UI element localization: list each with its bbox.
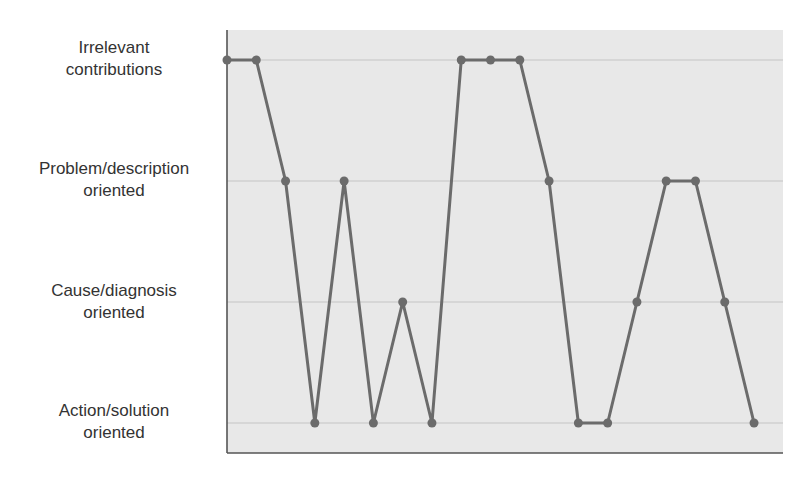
data-point	[632, 298, 641, 307]
data-point	[574, 419, 583, 428]
data-point	[457, 56, 466, 65]
data-point	[369, 419, 378, 428]
data-point	[750, 419, 759, 428]
data-point	[281, 177, 290, 186]
data-point	[398, 298, 407, 307]
data-point	[720, 298, 729, 307]
data-point	[515, 56, 524, 65]
data-point	[223, 56, 232, 65]
data-point	[691, 177, 700, 186]
data-point	[486, 56, 495, 65]
line-chart	[0, 0, 805, 481]
data-point	[545, 177, 554, 186]
data-point	[252, 56, 261, 65]
data-point	[603, 419, 612, 428]
data-point	[310, 419, 319, 428]
data-point	[662, 177, 671, 186]
data-point	[340, 177, 349, 186]
data-point	[427, 419, 436, 428]
